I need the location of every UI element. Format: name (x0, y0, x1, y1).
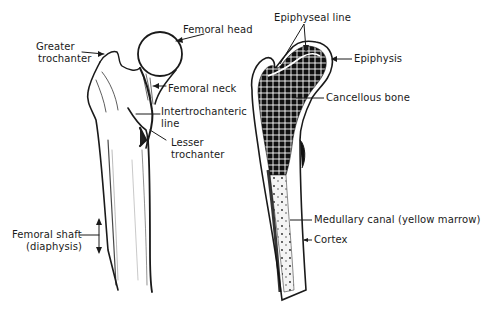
label-epiphysis: Epiphysis (354, 53, 402, 65)
label-femoral-shaft-line1: Femoral shaft (12, 229, 82, 241)
sectioned-femur (252, 24, 352, 300)
label-greater-trochanter-line1: Greater (36, 41, 75, 53)
label-lesser-trochanter-line2: trochanter (171, 149, 224, 161)
label-cortex: Cortex (314, 234, 348, 246)
label-intertrochanteric-line2: line (161, 118, 179, 130)
label-medullary-canal: Medullary canal (yellow marrow) (314, 214, 480, 226)
femur-diagram: Greater trochanter Femoral head Femoral … (0, 0, 494, 322)
label-intertrochanteric-line1: Intertrochanteric (161, 106, 247, 118)
label-lesser-trochanter-line1: Lesser (171, 137, 204, 149)
label-femoral-neck: Femoral neck (168, 83, 236, 95)
label-greater-trochanter-line2: trochanter (38, 53, 91, 65)
label-epiphyseal-line: Epiphyseal line (274, 12, 351, 24)
external-femur (80, 32, 204, 292)
label-cancellous-bone: Cancellous bone (326, 92, 410, 104)
label-femoral-head: Femoral head (183, 24, 253, 36)
label-femoral-shaft-line2: (diaphysis) (26, 241, 82, 253)
